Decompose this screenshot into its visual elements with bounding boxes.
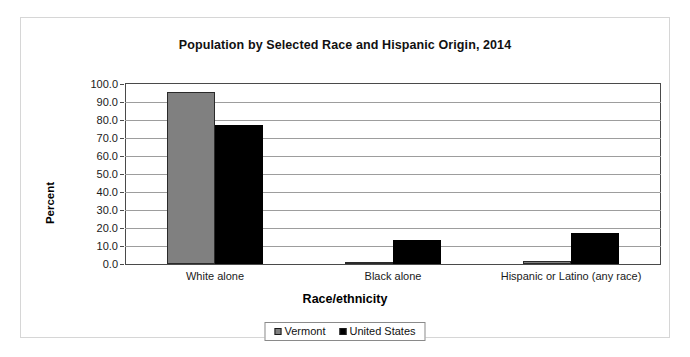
y-axis-tick-mark	[120, 192, 124, 193]
bar-united-states	[393, 240, 441, 264]
bar-series-layer	[126, 84, 660, 264]
y-axis-tick-label: 60.0	[58, 150, 118, 162]
y-axis-title-text: Percent	[44, 182, 56, 224]
legend-swatch-icon	[274, 328, 281, 335]
y-axis-tick-label: 70.0	[58, 132, 118, 144]
y-axis-tick-mark	[120, 120, 124, 121]
y-axis-tick-mark	[120, 138, 124, 139]
bar-vermont	[345, 262, 393, 264]
bar-group	[304, 84, 482, 264]
legend-item[interactable]: United States	[339, 325, 415, 337]
y-axis-tick-label: 10.0	[58, 240, 118, 252]
y-axis-tick-label: 30.0	[58, 204, 118, 216]
x-axis-title: Race/ethnicity	[21, 292, 669, 306]
chart-legend: VermontUnited States	[264, 322, 425, 341]
y-axis-tick-mark	[120, 246, 124, 247]
legend-label: United States	[349, 325, 415, 337]
bar-united-states	[571, 233, 619, 264]
legend-swatch-icon	[339, 328, 346, 335]
chart-frame: Population by Selected Race and Hispanic…	[20, 17, 670, 338]
bar-vermont	[523, 261, 571, 264]
y-axis-tick-mark	[120, 102, 124, 103]
chart-title: Population by Selected Race and Hispanic…	[21, 38, 669, 52]
y-axis-tick-mark	[120, 156, 124, 157]
bar-vermont	[167, 92, 215, 264]
bar-group	[482, 84, 660, 264]
y-axis-tick-mark	[120, 84, 124, 85]
x-axis-category-label: White alone	[126, 270, 304, 282]
y-axis-tick-label: 100.0	[58, 78, 118, 90]
y-axis-tick-mark	[120, 210, 124, 211]
y-axis-tick-label: 40.0	[58, 186, 118, 198]
x-axis-category-label: Black alone	[304, 270, 482, 282]
y-axis-tick-label: 0.0	[58, 258, 118, 270]
y-axis-tick-label: 20.0	[58, 222, 118, 234]
y-axis-tick-mark	[120, 174, 124, 175]
y-axis-tick-label: 90.0	[58, 96, 118, 108]
x-axis-category-label: Hispanic or Latino (any race)	[482, 270, 660, 282]
bar-united-states	[215, 125, 263, 264]
y-axis-tick-mark	[120, 228, 124, 229]
bar-group	[126, 84, 304, 264]
plot-area: 100.090.080.070.060.050.040.030.020.010.…	[125, 83, 661, 265]
y-axis-tick-label: 50.0	[58, 168, 118, 180]
y-axis-tick-label: 80.0	[58, 114, 118, 126]
y-axis-tick-mark	[120, 264, 124, 265]
legend-label: Vermont	[284, 325, 325, 337]
legend-item[interactable]: Vermont	[274, 325, 325, 337]
